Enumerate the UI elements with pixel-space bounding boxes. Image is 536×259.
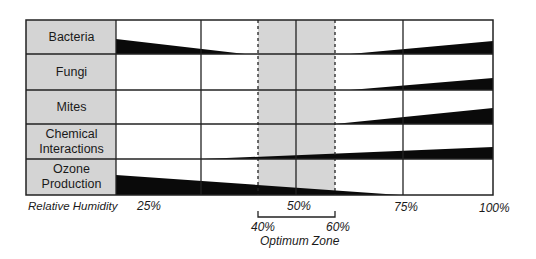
x-axis-title: Relative Humidity <box>28 200 117 212</box>
band-mites <box>335 108 493 124</box>
optimum-zone-label: Optimum Zone <box>260 234 339 248</box>
row-label-fungi: Fungi <box>27 54 116 90</box>
row-label-ozone: Ozone Production <box>27 159 116 195</box>
zone-left-label: 40% <box>251 220 275 234</box>
band-bacteria-left <box>116 39 245 54</box>
tick-75: 75% <box>394 200 418 214</box>
tick-100: 100% <box>479 201 510 215</box>
band-bacteria-right <box>350 41 493 54</box>
tick-25: 25% <box>137 199 161 213</box>
row-label-chemical: Chemical Interactions <box>27 124 116 159</box>
zone-right-label: 60% <box>326 220 350 234</box>
row-label-mites: Mites <box>27 90 116 124</box>
band-chemical <box>203 147 493 159</box>
band-fungi <box>350 78 493 90</box>
tick-50: 50% <box>287 199 311 213</box>
row-label-bacteria: Bacteria <box>27 20 116 54</box>
